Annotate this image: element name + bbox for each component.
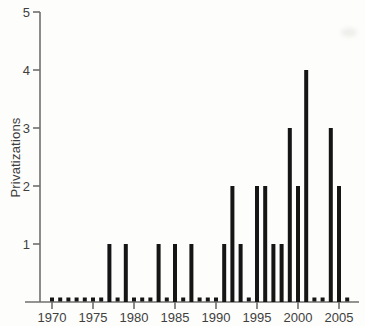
stem-bar-1997 [271,244,275,302]
stem-bar-2005 [337,186,341,302]
y-axis-title: Privatizations [8,98,23,218]
zero-marker-1990 [214,298,218,302]
zero-marker-1986 [181,298,185,302]
stem-bar-1995 [255,186,259,302]
zero-marker-1970 [50,298,54,302]
zero-marker-1989 [206,298,210,302]
scan-smudge-artifact [341,28,357,37]
zero-marker-1972 [66,298,70,302]
zero-marker-2002 [312,298,316,302]
zero-marker-2006 [345,298,349,302]
stem-bar-2001 [304,70,308,302]
stem-bar-2000 [296,186,300,302]
x-tick-label-1980: 1980 [120,310,149,325]
zero-marker-1988 [198,298,202,302]
plot-area: 1234519701975198019851990199520002005 [0,0,365,326]
stem-bar-1979 [124,244,128,302]
stem-bar-2004 [329,128,333,302]
stem-bar-1991 [222,244,226,302]
stem-bar-1977 [107,244,111,302]
stem-bar-1996 [263,186,267,302]
y-tick-label-1: 1 [23,237,30,252]
x-tick-label-1995: 1995 [243,310,272,325]
y-tick-label-5: 5 [23,5,30,20]
stem-bar-1985 [173,244,177,302]
y-tick-label-3: 3 [23,121,30,136]
x-tick-label-1990: 1990 [202,310,231,325]
zero-marker-1978 [116,298,120,302]
zero-marker-1971 [58,298,62,302]
x-tick-label-2000: 2000 [284,310,313,325]
zero-marker-1984 [165,298,169,302]
stem-bar-1992 [230,186,234,302]
zero-marker-1974 [83,298,87,302]
y-tick-label-2: 2 [23,179,30,194]
zero-marker-1975 [91,298,95,302]
zero-marker-1982 [148,298,152,302]
x-tick-label-1985: 1985 [161,310,190,325]
y-tick-label-4: 4 [23,63,30,78]
stem-bar-1998 [280,244,284,302]
zero-marker-2003 [321,298,325,302]
zero-marker-1994 [247,298,251,302]
stem-bar-1999 [288,128,292,302]
zero-marker-1976 [99,298,103,302]
zero-marker-1981 [140,298,144,302]
stem-bar-1993 [239,244,243,302]
x-tick-label-2005: 2005 [325,310,354,325]
privatizations-stem-chart: Privatizations 1234519701975198019851990… [0,0,365,326]
x-tick-label-1975: 1975 [79,310,108,325]
zero-marker-1973 [75,298,79,302]
stem-bar-1987 [189,244,193,302]
x-tick-label-1970: 1970 [38,310,67,325]
zero-marker-1980 [132,298,136,302]
stem-bar-1983 [157,244,161,302]
